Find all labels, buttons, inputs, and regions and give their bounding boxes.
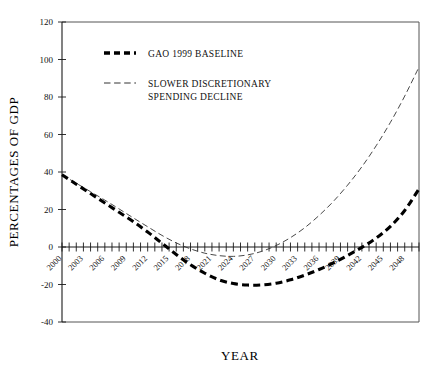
legend-label-slower-discretionary-line2: SPENDING DECLINE bbox=[148, 92, 243, 102]
y-tick-label-60: 60 bbox=[44, 130, 54, 140]
y-tick-label-0: 0 bbox=[49, 242, 54, 252]
y-tick-label-120: 120 bbox=[40, 17, 54, 27]
chart-figure: -40-20020406080100120 200020032006200920… bbox=[0, 0, 438, 372]
y-tick-label--40: -40 bbox=[41, 317, 53, 327]
x-axis-title: YEAR bbox=[221, 348, 259, 363]
legend-label-gao-1999-baseline: GAO 1999 BASELINE bbox=[148, 49, 243, 59]
y-tick-label-80: 80 bbox=[44, 92, 54, 102]
y-axis-title: PERCENTAGES OF GDP bbox=[6, 97, 21, 248]
y-tick-label-100: 100 bbox=[40, 55, 54, 65]
y-tick-label--20: -20 bbox=[41, 280, 53, 290]
legend-label-slower-discretionary-line1: SLOWER DISCRETIONARY bbox=[148, 79, 271, 89]
y-tick-label-20: 20 bbox=[44, 205, 54, 215]
chart-canvas: -40-20020406080100120 200020032006200920… bbox=[0, 0, 438, 372]
y-tick-label-40: 40 bbox=[44, 167, 54, 177]
